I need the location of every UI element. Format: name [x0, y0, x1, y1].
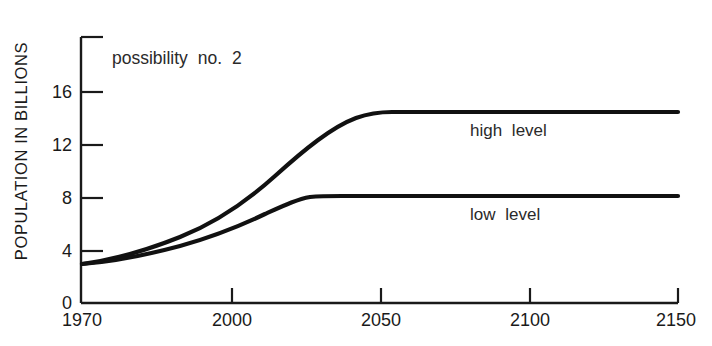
series-curve-low-level	[82, 196, 678, 264]
series-label-high-level: high level	[470, 122, 547, 139]
x-tick-label-2000: 2000	[196, 311, 268, 329]
series-curve-high-level	[82, 112, 678, 264]
y-tick-label-12: 12	[34, 136, 72, 154]
x-tick-label-2150: 2150	[640, 311, 712, 329]
y-axis-title: POPULATION IN BILLIONS	[4, 0, 38, 324]
y-tick-label-8: 8	[34, 189, 72, 207]
chart-figure: POPULATION IN BILLIONS 16 12 8 4 0 1970 …	[0, 0, 712, 346]
y-tick-label-4: 4	[34, 242, 72, 260]
x-tick-label-2100: 2100	[494, 311, 566, 329]
series-label-low-level: low level	[470, 206, 540, 223]
x-tick-label-2050: 2050	[345, 311, 417, 329]
chart-plot-area	[0, 0, 712, 346]
chart-title: possibility no. 2	[112, 50, 242, 68]
x-axis-ticks	[232, 288, 678, 303]
y-tick-label-16: 16	[34, 83, 72, 101]
y-axis-ticks	[81, 37, 103, 251]
x-tick-label-1970: 1970	[46, 311, 118, 329]
